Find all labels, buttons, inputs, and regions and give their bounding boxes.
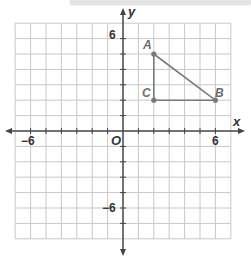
point-a	[151, 51, 156, 56]
y-tick-label-pos6: 6	[109, 28, 116, 42]
x-axis-arrow-left-icon	[5, 128, 12, 134]
point-c	[151, 98, 156, 103]
y-axis-arrow-up-icon	[120, 8, 126, 15]
origin-label: O	[111, 133, 121, 148]
point-a-label: A	[142, 38, 152, 52]
x-tick-label-neg6: −6	[21, 134, 35, 148]
y-axis-label: y	[127, 4, 136, 19]
coordinate-plane: x y O −6 6 6 −6 A B C	[0, 0, 251, 261]
y-axis-arrow-down-icon	[120, 249, 126, 256]
point-b-label: B	[215, 86, 224, 100]
y-tick-label-neg6: −6	[102, 201, 116, 215]
point-c-label: C	[142, 86, 151, 100]
axes	[5, 8, 245, 256]
x-tick-label-pos6: 6	[212, 134, 219, 148]
x-axis-label: x	[232, 114, 241, 129]
